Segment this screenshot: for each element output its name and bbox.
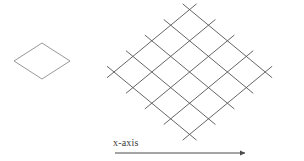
x-axis-label: x-axis <box>113 137 139 148</box>
unit-cell-outline <box>14 43 70 79</box>
unit-cell-diamond <box>14 43 70 79</box>
lattice-grid <box>107 4 272 140</box>
lattice-figure <box>0 0 304 161</box>
